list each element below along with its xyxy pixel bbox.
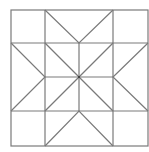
bottom-v-shape <box>45 111 113 146</box>
quilt-block-diagram <box>0 0 149 152</box>
top-v-shape <box>45 10 113 43</box>
left-chevron-shape <box>11 43 45 111</box>
center-point <box>78 76 80 78</box>
right-chevron-shape <box>113 43 148 111</box>
quilt-block-svg <box>0 0 149 152</box>
